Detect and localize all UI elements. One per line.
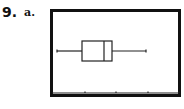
box-plot <box>0 0 184 109</box>
iqr-box <box>82 41 112 61</box>
